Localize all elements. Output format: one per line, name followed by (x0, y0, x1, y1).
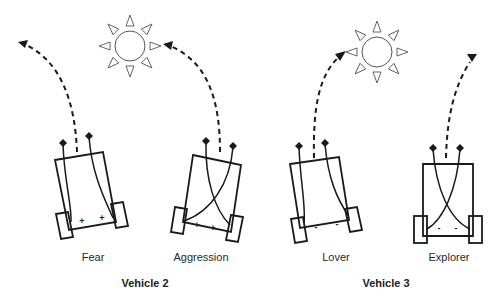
wire-left (299, 147, 304, 223)
vehicle-lover (290, 51, 362, 243)
vehicle-aggression (163, 41, 243, 242)
sensor-left (202, 137, 210, 145)
motor-sign: - (315, 222, 318, 232)
vehicle-label-aggression: Aggression (173, 251, 228, 263)
sensor-left (295, 142, 303, 150)
wire-right (89, 137, 113, 218)
arrowhead-icon (18, 40, 28, 48)
sensor-right (85, 132, 93, 140)
motor-sign: + (194, 220, 199, 230)
arrowhead-icon (163, 41, 173, 50)
wheel-right (226, 215, 243, 242)
sensor-right (456, 144, 464, 152)
wheel-left (414, 216, 427, 243)
braitenberg-vehicles-diagram (0, 0, 501, 298)
wire-left (206, 142, 230, 225)
wire-left (433, 149, 470, 229)
vehicle-fear (18, 40, 128, 239)
motor-sign: - (438, 223, 441, 233)
sensor-right (229, 142, 237, 150)
motor-sign: - (336, 219, 339, 229)
trajectory-path (446, 62, 470, 158)
sensor-left (59, 139, 67, 147)
arrowhead-icon (467, 54, 477, 62)
motor-sign: + (99, 213, 104, 223)
sensor-left (429, 144, 437, 152)
motor-sign: + (210, 223, 215, 233)
sun-icon (333, 8, 421, 96)
wire-right (325, 144, 348, 215)
vehicle-label-lover: Lover (322, 251, 350, 263)
motor-sign: - (455, 223, 458, 233)
sensor-right (321, 139, 329, 147)
wheel-right (469, 216, 482, 243)
vehicle-label-explorer: Explorer (429, 251, 470, 263)
motor-sign: + (79, 216, 84, 226)
vehicle-label-fear: Fear (82, 251, 105, 263)
trajectory-path (24, 44, 77, 152)
vehicle-explorer (414, 54, 482, 243)
sun-icon (86, 2, 174, 90)
trajectory-path (170, 46, 220, 152)
group-label-vehicle-2: Vehicle 2 (121, 277, 168, 289)
group-label-vehicle-3: Vehicle 3 (362, 277, 409, 289)
